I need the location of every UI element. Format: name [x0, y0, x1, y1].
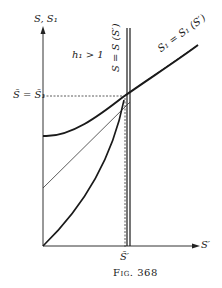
- x-tick-label: S̄′: [120, 252, 129, 262]
- x-axis-label: S′: [201, 240, 210, 250]
- thin-diagonal-line: [43, 102, 130, 188]
- figure-caption: Fig. 368: [113, 268, 158, 278]
- equilibrium-label: S̄ = S̄₁: [13, 90, 45, 100]
- lower-convex-curve: [43, 100, 124, 246]
- vertical-curve-label: S = S (S′): [111, 23, 121, 72]
- y-axis-arrow-icon: [41, 26, 46, 34]
- x-axis-arrow-icon: [192, 244, 200, 249]
- y-axis-label: S, S₁: [34, 14, 58, 24]
- condition-label: h₁ > 1: [72, 50, 104, 60]
